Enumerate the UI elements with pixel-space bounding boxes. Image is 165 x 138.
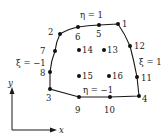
node-label-8: 8 — [40, 68, 45, 78]
node-16 — [107, 74, 111, 78]
node-1 — [116, 22, 120, 26]
node-label-3: 3 — [46, 93, 51, 103]
node-11 — [135, 75, 139, 79]
node-label-9: 9 — [75, 105, 80, 115]
node-8 — [48, 70, 52, 74]
node-label-6: 6 — [75, 32, 80, 42]
node-12 — [128, 44, 132, 48]
node-label-15: 15 — [82, 71, 93, 81]
node-9 — [77, 95, 81, 99]
node-label-16: 16 — [112, 71, 123, 81]
node-label-5: 5 — [96, 29, 101, 39]
node-2 — [58, 32, 62, 36]
x-axis-label: x — [59, 125, 64, 135]
node-label-2: 2 — [48, 27, 53, 37]
node-14 — [77, 48, 81, 52]
node-label-14: 14 — [82, 45, 93, 55]
node-5 — [97, 23, 101, 27]
node-label-7: 7 — [40, 46, 45, 56]
node-3 — [48, 87, 52, 91]
edge-label-left: ξ = −1 — [16, 58, 46, 68]
node-label-4: 4 — [142, 94, 147, 104]
x-axis-arrow-icon — [50, 128, 57, 133]
node-label-12: 12 — [134, 41, 145, 51]
node-label-10: 10 — [104, 105, 115, 115]
edge-label-bottom: η = −1 — [83, 85, 113, 95]
node-label-1: 1 — [122, 19, 127, 29]
y-axis-arrow-icon — [10, 87, 15, 94]
node-label-13: 13 — [107, 45, 118, 55]
diagram-svg: 1 2 3 4 5 6 7 8 9 10 11 12 13 14 15 16 η… — [0, 0, 165, 138]
node-6 — [76, 25, 80, 29]
element-diagram: 1 2 3 4 5 6 7 8 9 10 11 12 13 14 15 16 η… — [0, 0, 165, 138]
node-15 — [77, 74, 81, 78]
edge-label-top: η = 1 — [80, 10, 103, 20]
node-10 — [108, 95, 112, 99]
y-axis-label: y — [7, 78, 13, 88]
node-4 — [137, 94, 141, 98]
node-13 — [102, 48, 106, 52]
edge-label-right: ξ = 1 — [139, 57, 162, 67]
node-7 — [53, 49, 57, 53]
node-label-11: 11 — [141, 73, 152, 83]
